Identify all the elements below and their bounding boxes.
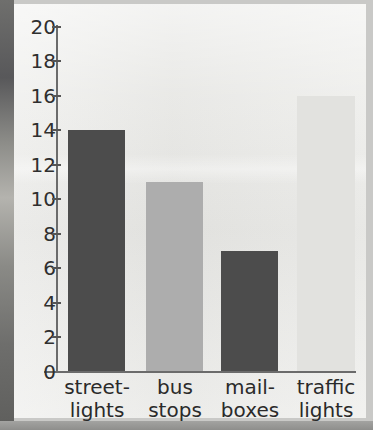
x-label-line-2: lights (287, 399, 365, 422)
y-tick-label-20: 20 (10, 17, 56, 37)
bar-traffic-lights (297, 96, 355, 371)
y-tick-mark-8 (52, 233, 61, 235)
x-label-line-2: stops (136, 399, 214, 422)
y-tick-mark-6 (52, 267, 61, 269)
y-tick-mark-18 (52, 60, 61, 62)
y-tick-label-8: 8 (10, 224, 56, 244)
y-tick-label-6: 6 (10, 258, 56, 278)
y-tick-mark-10 (52, 198, 61, 200)
bar-chart: 20 18 16 14 12 10 8 6 4 2 0 street- ligh… (0, 0, 373, 430)
x-label-line-1: bus (136, 376, 214, 399)
y-tick-mark-16 (52, 95, 61, 97)
x-label-line-2: lights (58, 399, 136, 422)
y-tick-label-4: 4 (10, 293, 56, 313)
y-tick-mark-4 (52, 302, 61, 304)
x-label-line-1: street- (58, 376, 136, 399)
y-tick-label-16: 16 (10, 86, 56, 106)
y-tick-mark-14 (52, 129, 61, 131)
photographed-chart-page: 20 18 16 14 12 10 8 6 4 2 0 street- ligh… (0, 0, 373, 430)
bar-mail-boxes (221, 251, 278, 371)
x-axis-line (44, 371, 356, 373)
x-label-bus-stops: bus stops (136, 376, 214, 422)
y-tick-mark-2 (52, 336, 61, 338)
x-label-traffic-lights: traffic lights (287, 376, 365, 422)
x-label-line-2: boxes (211, 399, 289, 422)
y-tick-mark-12 (52, 164, 61, 166)
y-tick-label-12: 12 (10, 155, 56, 175)
y-tick-label-2: 2 (10, 327, 56, 347)
x-label-line-1: traffic (287, 376, 365, 399)
y-tick-mark-20 (52, 26, 61, 28)
bar-street-lights (68, 130, 125, 371)
x-label-street-lights: street- lights (58, 376, 136, 422)
y-tick-label-0: 0 (10, 362, 56, 382)
y-tick-label-18: 18 (10, 51, 56, 71)
x-label-mail-boxes: mail- boxes (211, 376, 289, 422)
y-tick-label-14: 14 (10, 120, 56, 140)
x-label-line-1: mail- (211, 376, 289, 399)
y-tick-label-10: 10 (10, 189, 56, 209)
bar-bus-stops (146, 182, 203, 371)
